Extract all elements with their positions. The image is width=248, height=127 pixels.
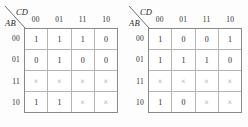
kmap-cell: 0 [72, 50, 95, 70]
kmap-cell: 1 [72, 29, 95, 49]
kmap-cell: × [219, 92, 241, 112]
kmap-cell: 1 [149, 50, 172, 70]
kmap-cell: 0 [196, 29, 219, 49]
kmap-cell: × [95, 71, 117, 91]
kmap-cell: 1 [25, 92, 48, 112]
kmap-row: × × × × [149, 71, 241, 92]
kmap-right-row-headers: 00 01 11 10 [126, 28, 146, 113]
kmap-cell: 1 [25, 29, 48, 49]
kmap-cell: 0 [172, 29, 195, 49]
kmap-left-corner-header: CD AB [4, 4, 26, 29]
kmap-cell: 0 [25, 50, 48, 70]
kmap-row: 1 1 1 0 [149, 50, 241, 71]
row-header: 00 [2, 28, 22, 49]
row-header: 10 [2, 92, 22, 113]
column-header: 10 [95, 13, 119, 27]
kmap-left-grid: 1 1 1 0 0 1 0 0 × × × × 1 1 × × [24, 28, 118, 113]
karnaugh-map-figure: CD AB 00 01 11 10 00 01 11 10 1 1 1 0 0 … [0, 0, 248, 127]
column-header: 00 [148, 13, 172, 27]
row-header: 10 [126, 92, 146, 113]
kmap-cell: × [196, 92, 219, 112]
kmap-row: 1 0 × × [149, 92, 241, 112]
row-header: 01 [126, 49, 146, 70]
kmap-row: 1 1 1 0 [25, 29, 117, 50]
kmap-cell: 0 [219, 50, 241, 70]
kmap-row: 0 1 0 0 [25, 50, 117, 71]
kmap-cell: 0 [95, 29, 117, 49]
column-header: 01 [172, 13, 196, 27]
kmap-cell: × [95, 92, 117, 112]
kmap-left-column-headers: 00 01 11 10 [24, 13, 118, 27]
kmap-right-row-variable-label: AB [129, 18, 140, 28]
kmap-cell: × [149, 71, 172, 91]
row-header: 11 [2, 71, 22, 92]
kmap-cell: × [72, 92, 95, 112]
row-header: 01 [2, 49, 22, 70]
column-header: 01 [48, 13, 72, 27]
kmap-cell: × [196, 71, 219, 91]
kmap-right-corner-header: CD AB [128, 4, 150, 29]
kmap-right-grid: 1 0 0 1 1 1 1 0 × × × × 1 0 × × [148, 28, 242, 113]
kmap-cell: 1 [196, 50, 219, 70]
kmap-cell: 1 [149, 29, 172, 49]
kmap-cell: 1 [149, 92, 172, 112]
kmap-cell: 0 [172, 92, 195, 112]
kmap-right: CD AB 00 01 11 10 00 01 11 10 1 0 0 1 1 … [124, 0, 248, 127]
kmap-cell: 0 [95, 50, 117, 70]
kmap-cell: × [48, 71, 71, 91]
kmap-cell: 1 [219, 29, 241, 49]
kmap-right-column-headers: 00 01 11 10 [148, 13, 242, 27]
row-header: 11 [126, 71, 146, 92]
column-header: 11 [71, 13, 95, 27]
kmap-cell: × [72, 71, 95, 91]
kmap-row: × × × × [25, 71, 117, 92]
kmap-row: 1 0 0 1 [149, 29, 241, 50]
kmap-cell: 1 [48, 29, 71, 49]
kmap-cell: 1 [48, 50, 71, 70]
kmap-cell: 1 [48, 92, 71, 112]
kmap-left-row-variable-label: AB [5, 18, 16, 28]
kmap-row: 1 1 × × [25, 92, 117, 112]
kmap-cell: × [25, 71, 48, 91]
row-header: 00 [126, 28, 146, 49]
column-header: 11 [195, 13, 219, 27]
kmap-left-row-headers: 00 01 11 10 [2, 28, 22, 113]
kmap-cell: × [172, 71, 195, 91]
column-header: 00 [24, 13, 48, 27]
kmap-left: CD AB 00 01 11 10 00 01 11 10 1 1 1 0 0 … [0, 0, 124, 127]
kmap-cell: 1 [172, 50, 195, 70]
kmap-cell: × [219, 71, 241, 91]
column-header: 10 [219, 13, 243, 27]
